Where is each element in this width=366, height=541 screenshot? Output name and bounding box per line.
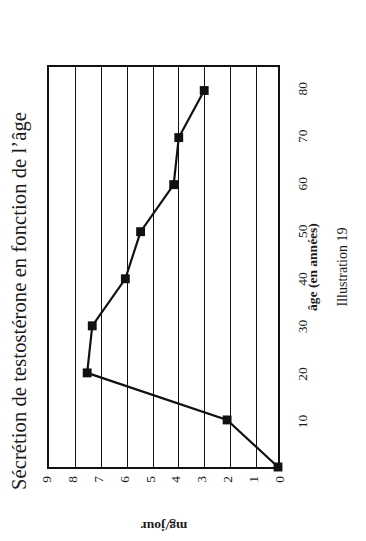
data-point-70 bbox=[174, 133, 183, 142]
rotated-figure-wrapper: Sécrétion de testostérone en fonction de… bbox=[0, 0, 366, 541]
data-point-80 bbox=[200, 86, 209, 95]
chart-title: Sécrétion de testostérone en fonction de… bbox=[8, 61, 31, 541]
y-axis-label: mg/jour bbox=[47, 517, 280, 535]
y-tick-label-8: 8 bbox=[66, 476, 80, 502]
data-point-50 bbox=[136, 227, 145, 236]
data-point-10 bbox=[223, 415, 232, 424]
data-point-0 bbox=[274, 463, 283, 472]
data-point-40 bbox=[121, 274, 130, 283]
series-line-and-markers bbox=[49, 67, 278, 467]
y-tick-label-6: 6 bbox=[118, 476, 132, 502]
data-point-30 bbox=[88, 321, 97, 330]
y-tick-label-1: 1 bbox=[247, 476, 261, 502]
y-tick-label-7: 7 bbox=[92, 476, 106, 502]
plot-area bbox=[47, 65, 280, 469]
y-tick-label-3: 3 bbox=[196, 476, 210, 502]
series-markers bbox=[83, 86, 283, 471]
figure-caption: Illustration 19 bbox=[335, 65, 351, 469]
x-axis-label: âge (en années) bbox=[305, 65, 321, 469]
series-line bbox=[87, 91, 278, 467]
data-point-60 bbox=[169, 180, 178, 189]
y-tick-label-9: 9 bbox=[40, 476, 54, 502]
y-axis-label-text: mg/jour bbox=[140, 518, 187, 534]
y-tick-label-0: 0 bbox=[273, 476, 287, 502]
data-point-20 bbox=[83, 368, 92, 377]
y-tick-label-4: 4 bbox=[170, 476, 184, 502]
y-tick-label-5: 5 bbox=[144, 476, 158, 502]
figure: Sécrétion de testostérone en fonction de… bbox=[0, 0, 366, 541]
y-tick-label-2: 2 bbox=[221, 476, 235, 502]
